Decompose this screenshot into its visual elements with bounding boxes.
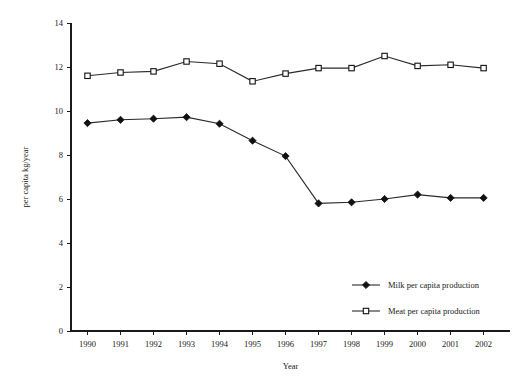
series-1	[84, 114, 487, 207]
data-point-marker	[85, 73, 90, 78]
series-2	[85, 53, 486, 84]
y-tick-label: 14	[55, 18, 64, 28]
y-axis-title: per capita kg/year	[20, 146, 30, 207]
data-point-marker	[316, 65, 321, 70]
y-tick-label: 2	[59, 282, 63, 292]
y-tick-label: 0	[59, 326, 63, 336]
x-tick-label: 1998	[343, 339, 360, 349]
data-point-marker	[447, 194, 454, 201]
y-tick-label: 10	[55, 106, 64, 116]
data-point-marker	[283, 71, 288, 76]
data-point-marker	[481, 65, 486, 70]
chart-legend: Milk per capita productionMeat per capit…	[352, 280, 481, 316]
y-tick-label: 12	[55, 62, 64, 72]
x-tick-label: 1999	[376, 339, 393, 349]
legend-item-1[interactable]: Milk per capita production	[352, 280, 480, 290]
chart-container: 02468101214 1990199119921993199419951996…	[0, 0, 525, 386]
data-point-marker	[382, 53, 387, 58]
x-tick-label: 1993	[178, 339, 195, 349]
series-line	[88, 117, 484, 203]
x-tick-label: 1997	[310, 339, 327, 349]
data-point-marker	[282, 153, 289, 160]
data-point-marker	[217, 61, 222, 66]
x-tick-label: 1990	[79, 339, 96, 349]
legend-marker	[363, 308, 368, 313]
data-point-marker	[150, 115, 157, 122]
data-point-marker	[348, 199, 355, 206]
y-tick-label: 8	[59, 150, 63, 160]
x-tick-label: 2002	[475, 339, 492, 349]
x-tick-label: 1996	[277, 339, 294, 349]
x-tick-label: 2000	[409, 339, 426, 349]
legend-label: Milk per capita production	[388, 280, 480, 290]
data-point-marker	[448, 62, 453, 67]
data-point-marker	[315, 200, 322, 207]
data-point-marker	[151, 69, 156, 74]
data-point-marker	[415, 63, 420, 68]
data-point-marker	[183, 114, 190, 121]
x-tick-label: 1994	[211, 339, 229, 349]
data-point-marker	[414, 191, 421, 198]
legend-label: Meat per capita production	[388, 306, 481, 316]
y-axis-ticks: 02468101214	[55, 18, 72, 336]
data-point-marker	[184, 59, 189, 64]
x-axis-ticks: 1990199119921993199419951996199719981999…	[79, 331, 492, 349]
x-axis-title: Year	[283, 361, 299, 371]
data-point-marker	[250, 79, 255, 84]
data-point-marker	[84, 120, 91, 127]
data-point-marker	[480, 194, 487, 201]
series-line	[88, 56, 484, 81]
data-point-marker	[216, 120, 223, 127]
y-tick-label: 4	[59, 238, 64, 248]
data-point-marker	[349, 65, 354, 70]
legend-marker	[362, 281, 369, 288]
data-point-marker	[381, 195, 388, 202]
data-point-marker	[249, 137, 256, 144]
x-tick-label: 1995	[244, 339, 261, 349]
legend-item-2[interactable]: Meat per capita production	[352, 306, 481, 316]
data-point-marker	[117, 116, 124, 123]
x-tick-label: 1992	[145, 339, 162, 349]
line-chart: 02468101214 1990199119921993199419951996…	[0, 0, 525, 386]
series-layer	[84, 53, 487, 207]
y-tick-label: 6	[59, 194, 63, 204]
data-point-marker	[118, 70, 123, 75]
x-tick-label: 1991	[112, 339, 129, 349]
x-tick-label: 2001	[442, 339, 459, 349]
